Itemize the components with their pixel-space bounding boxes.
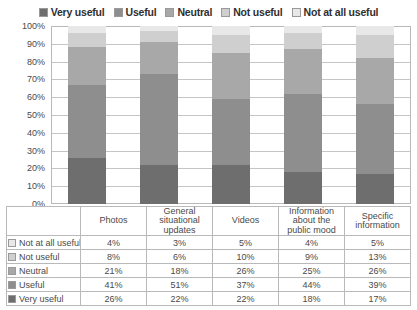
table-cell: 6% [147, 250, 213, 264]
bar-segment[interactable] [356, 35, 395, 58]
legend-swatch-icon [8, 281, 16, 289]
legend-swatch-icon [39, 8, 48, 17]
table-column-header: General situational updates [147, 207, 213, 236]
legend-item-label: Neutral [177, 6, 212, 18]
table-column-header: Specific information [345, 207, 411, 236]
table-cell: 37% [213, 278, 279, 292]
legend-item[interactable]: Not useful [221, 6, 282, 18]
stacked-bar[interactable] [284, 26, 323, 204]
table-cell: 51% [147, 278, 213, 292]
legend-swatch-icon [114, 8, 123, 17]
table-cell: 26% [345, 264, 411, 278]
table-corner-cell [7, 207, 81, 236]
bar-segment[interactable] [68, 158, 107, 204]
table-cell: 4% [81, 236, 147, 250]
plot-area: 100%90%80%70%60%50%40%30%20%10%0% [0, 26, 417, 218]
table-cell: 25% [279, 264, 345, 278]
bar-segment[interactable] [356, 26, 395, 35]
table-cell: 9% [279, 250, 345, 264]
bar-segment[interactable] [212, 53, 251, 99]
legend-item[interactable]: Not at all useful [292, 6, 379, 18]
bar-series-container [51, 26, 411, 204]
y-axis-tick-label: 100% [22, 21, 45, 31]
legend-swatch-icon [8, 267, 16, 275]
bar-segment[interactable] [212, 99, 251, 165]
table-cell: 4% [279, 236, 345, 250]
legend-swatch-icon [8, 253, 16, 261]
table-cell: 22% [213, 292, 279, 306]
chart-legend: Very usefulUsefulNeutralNot usefulNot at… [0, 6, 417, 18]
y-axis-tick-label: 60% [27, 92, 45, 102]
table-column-header: Information about the public mood [279, 207, 345, 236]
bar-segment[interactable] [356, 104, 395, 173]
y-axis-tick-label: 10% [27, 181, 45, 191]
stacked-bar[interactable] [356, 26, 395, 204]
y-axis-tick-label: 80% [27, 57, 45, 67]
legend-item[interactable]: Very useful [39, 6, 105, 18]
bar-segment[interactable] [284, 94, 323, 172]
table-cell: 41% [81, 278, 147, 292]
bar-slot [51, 26, 123, 204]
table-row-header: Not at all useful [7, 236, 81, 250]
legend-item[interactable]: Useful [114, 6, 157, 18]
table-cell: 22% [147, 292, 213, 306]
data-table-container: PhotosGeneral situational updatesVideosI… [6, 206, 411, 306]
table-header-row: PhotosGeneral situational updatesVideosI… [7, 207, 411, 236]
table-cell: 13% [345, 250, 411, 264]
bar-segment[interactable] [212, 35, 251, 53]
legend-swatch-icon [8, 295, 16, 303]
bar-segment[interactable] [356, 174, 395, 204]
bar-segment[interactable] [212, 165, 251, 204]
bar-segment[interactable] [140, 31, 179, 42]
bar-segment[interactable] [212, 26, 251, 35]
table-column-header: Videos [213, 207, 279, 236]
legend-swatch-icon [292, 8, 301, 17]
table-row-label: Not at all useful [19, 238, 81, 248]
legend-item[interactable]: Neutral [165, 6, 212, 18]
table-cell: 39% [345, 278, 411, 292]
bar-segment[interactable] [68, 26, 107, 33]
table-column-header: Photos [81, 207, 147, 236]
table-row-label: Not useful [19, 252, 60, 262]
legend-swatch-icon [221, 8, 230, 17]
legend-swatch-icon [165, 8, 174, 17]
bar-slot [267, 26, 339, 204]
bar-segment[interactable] [140, 42, 179, 74]
y-axis-tick-label: 50% [27, 110, 45, 120]
bar-segment[interactable] [68, 33, 107, 47]
table-row-header: Not useful [7, 250, 81, 264]
bar-slot [123, 26, 195, 204]
bar-segment[interactable] [284, 49, 323, 94]
y-axis-tick-label: 30% [27, 146, 45, 156]
bar-segment[interactable] [140, 165, 179, 204]
table-row-label: Neutral [19, 266, 48, 276]
bar-segment[interactable] [68, 47, 107, 84]
table-row-header: Very useful [7, 292, 81, 306]
legend-item-label: Useful [126, 6, 157, 18]
table-row: Not useful8%6%10%9%13% [7, 250, 411, 264]
table-cell: 3% [147, 236, 213, 250]
table-cell: 5% [213, 236, 279, 250]
table-row: Useful41%51%37%44%39% [7, 278, 411, 292]
stacked-bar[interactable] [212, 26, 251, 204]
bar-segment[interactable] [284, 33, 323, 49]
table-cell: 26% [81, 292, 147, 306]
data-table-body: PhotosGeneral situational updatesVideosI… [7, 207, 411, 306]
bar-segment[interactable] [284, 26, 323, 33]
y-axis-tick-label: 90% [27, 39, 45, 49]
bar-segment[interactable] [356, 58, 395, 104]
y-axis-tick-label: 20% [27, 163, 45, 173]
table-row: Neutral21%18%26%25%26% [7, 264, 411, 278]
stacked-bar[interactable] [68, 26, 107, 204]
bar-segment[interactable] [140, 74, 179, 165]
table-cell: 44% [279, 278, 345, 292]
table-cell: 10% [213, 250, 279, 264]
chart-page: Very usefulUsefulNeutralNot usefulNot at… [0, 0, 417, 310]
stacked-bar[interactable] [140, 26, 179, 204]
bar-segment[interactable] [68, 85, 107, 158]
table-cell: 26% [213, 264, 279, 278]
table-row-label: Very useful [19, 294, 64, 304]
table-cell: 5% [345, 236, 411, 250]
bar-slot [339, 26, 411, 204]
bar-segment[interactable] [284, 172, 323, 204]
